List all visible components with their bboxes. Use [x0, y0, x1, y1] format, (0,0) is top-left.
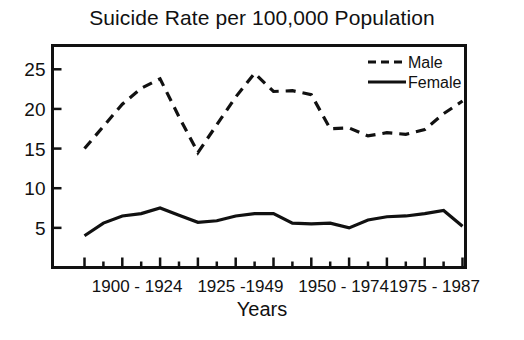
x-group-label-2: 1950 - 1974 — [298, 277, 389, 296]
chart-figure: Suicide Rate per 100,000 Population 5101… — [0, 0, 524, 340]
y-tick-label-25: 25 — [24, 59, 45, 80]
y-axis-tick-labels: 510152025 — [24, 59, 45, 239]
chart-legend: MaleFemale — [368, 54, 461, 91]
x-group-label-3: 1975 - 1987 — [389, 277, 480, 296]
data-series-layer — [85, 73, 463, 236]
x-group-label-1: 1925 -1949 — [197, 277, 283, 296]
series-line-female — [85, 208, 463, 236]
plot-area: 510152025 1900 - 19241925 -19491950 - 19… — [0, 0, 524, 340]
series-line-male — [85, 73, 463, 152]
x-axis-title: Years — [0, 298, 524, 321]
x-axis-ticks — [85, 258, 463, 268]
legend-label-female: Female — [408, 74, 461, 91]
y-tick-label-15: 15 — [24, 139, 45, 160]
y-tick-label-20: 20 — [24, 99, 45, 120]
y-tick-label-5: 5 — [35, 218, 46, 239]
x-axis-group-labels: 1900 - 19241925 -19491950 - 19741975 - 1… — [92, 277, 480, 296]
legend-label-male: Male — [408, 54, 443, 71]
x-group-label-0: 1900 - 1924 — [92, 277, 183, 296]
y-tick-label-10: 10 — [24, 178, 45, 199]
